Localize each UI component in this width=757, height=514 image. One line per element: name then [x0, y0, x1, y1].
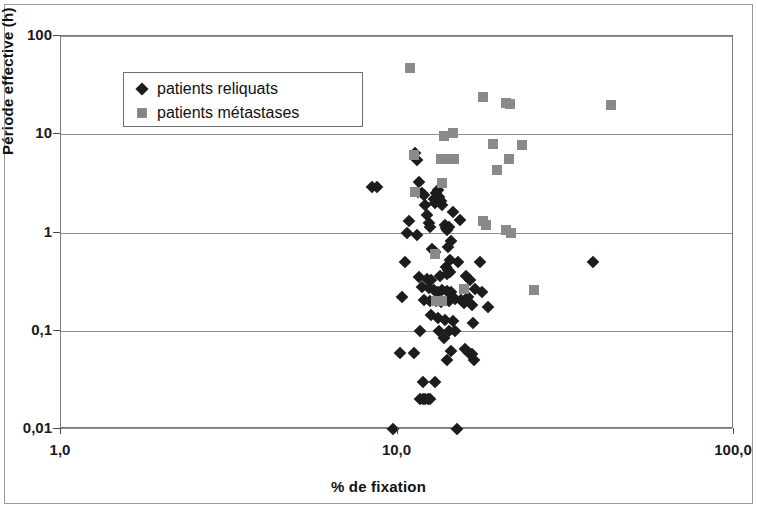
- x-axis-title: % de fixation: [0, 478, 757, 495]
- data-point-diamond: [419, 199, 432, 212]
- data-point-diamond: [419, 393, 432, 406]
- data-point-square: [410, 187, 420, 197]
- data-point-square: [501, 98, 511, 108]
- x-tick-label: 1,0: [0, 442, 120, 457]
- data-point-square: [449, 154, 459, 164]
- data-point-square: [443, 154, 453, 164]
- data-point-diamond: [394, 346, 407, 359]
- y-tick-label: 0,01: [0, 420, 52, 435]
- data-point-diamond: [448, 293, 461, 306]
- data-point-diamond: [412, 185, 425, 198]
- data-point-diamond: [460, 270, 473, 283]
- data-point-diamond: [432, 285, 445, 298]
- data-point-square: [436, 154, 446, 164]
- data-point-diamond: [436, 199, 449, 212]
- x-tick-mark: [733, 428, 734, 434]
- data-point-diamond: [586, 256, 599, 269]
- data-point-diamond: [423, 282, 436, 295]
- data-point-diamond: [474, 256, 487, 269]
- data-point-diamond: [440, 354, 453, 367]
- data-point-diamond: [440, 224, 453, 237]
- data-point-diamond: [459, 343, 472, 356]
- data-point-diamond: [421, 393, 434, 406]
- data-point-diamond: [425, 309, 438, 322]
- data-point-diamond: [428, 376, 441, 389]
- data-point-diamond: [435, 296, 448, 309]
- data-point-diamond: [443, 254, 456, 267]
- data-point-diamond: [438, 218, 451, 231]
- x-tick-label: 100,0: [673, 442, 757, 457]
- data-point-diamond: [415, 187, 428, 200]
- data-point-square: [405, 63, 415, 73]
- data-point-square: [481, 220, 491, 230]
- data-point-diamond: [446, 206, 459, 219]
- data-point-square: [478, 216, 488, 226]
- data-point-diamond: [441, 263, 454, 276]
- data-point-diamond: [410, 153, 423, 166]
- data-point-diamond: [458, 297, 471, 310]
- plot-area: patients reliquats patients métastases: [60, 35, 733, 428]
- data-point-diamond: [425, 273, 438, 286]
- data-point-diamond: [469, 283, 482, 296]
- data-point-square: [504, 154, 514, 164]
- data-point-diamond: [439, 260, 452, 273]
- data-point-square: [505, 99, 515, 109]
- data-point-diamond: [467, 317, 480, 330]
- y-tick-label: 100: [0, 27, 52, 42]
- data-point-diamond: [371, 181, 384, 194]
- y-tick-label: 10: [0, 125, 52, 140]
- data-point-diamond: [451, 256, 464, 269]
- data-point-diamond: [413, 271, 426, 284]
- data-point-diamond: [443, 265, 456, 278]
- data-point-square: [492, 165, 502, 175]
- y-tick-mark: [53, 133, 60, 134]
- data-point-diamond: [442, 220, 455, 233]
- data-point-square: [439, 131, 449, 141]
- data-point-diamond: [417, 376, 430, 389]
- y-tick-mark: [53, 330, 60, 331]
- data-point-diamond: [434, 270, 447, 283]
- data-point-diamond: [444, 235, 457, 248]
- gridline: [61, 134, 732, 135]
- data-point-diamond: [398, 256, 411, 269]
- data-point-diamond: [428, 246, 441, 259]
- legend-item-metastases: patients métastases: [136, 101, 362, 125]
- data-point-diamond: [395, 291, 408, 304]
- data-point-square: [529, 285, 539, 295]
- scatter-chart-figure: Période effective (h) 0,010,1110100 pati…: [0, 0, 757, 514]
- y-tick-label: 1: [0, 224, 52, 239]
- diamond-marker-icon: [135, 82, 148, 95]
- data-point-diamond: [432, 312, 445, 325]
- gridline: [61, 331, 732, 332]
- data-point-square: [437, 178, 447, 188]
- data-point-square: [488, 139, 498, 149]
- data-point-diamond: [426, 243, 439, 256]
- data-point-diamond: [408, 346, 421, 359]
- data-point-square: [606, 100, 616, 110]
- chart-legend: patients reliquats patients métastases: [123, 72, 363, 127]
- y-tick-mark: [53, 428, 60, 429]
- data-point-diamond: [402, 215, 415, 228]
- data-point-diamond: [429, 187, 442, 200]
- data-point-square: [431, 296, 441, 306]
- x-tick-mark: [397, 428, 398, 434]
- data-point-diamond: [414, 393, 427, 406]
- data-point-diamond: [418, 189, 431, 202]
- gridline: [61, 36, 732, 37]
- data-point-diamond: [410, 228, 423, 241]
- x-tick-mark: [60, 428, 61, 434]
- square-marker-icon: [137, 108, 147, 118]
- data-point-diamond: [427, 284, 440, 297]
- y-tick-mark: [53, 232, 60, 233]
- data-point-diamond: [463, 273, 476, 286]
- data-point-diamond: [435, 194, 448, 207]
- data-point-diamond: [423, 217, 436, 230]
- data-point-diamond: [438, 313, 451, 326]
- data-point-diamond: [415, 280, 428, 293]
- data-point-diamond: [463, 346, 476, 359]
- data-point-diamond: [427, 192, 440, 205]
- data-point-diamond: [462, 291, 475, 304]
- data-point-diamond: [366, 181, 379, 194]
- data-point-square: [409, 150, 419, 160]
- data-point-square: [517, 140, 527, 150]
